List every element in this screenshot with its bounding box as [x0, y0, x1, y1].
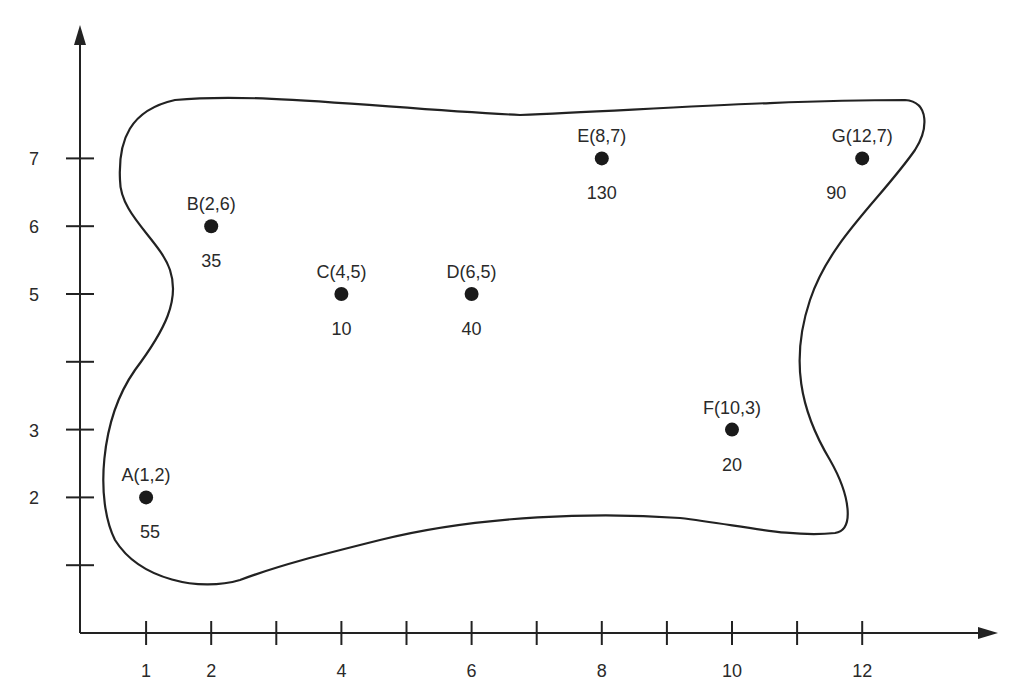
x-tick-label: 12 [852, 661, 872, 681]
point-value: 90 [826, 183, 846, 203]
y-ticks: 23567 [29, 149, 94, 565]
region-boundary [103, 98, 924, 585]
point-value: 130 [587, 183, 617, 203]
point-d: D(6,5)40 [447, 262, 497, 339]
point-label: E(8,7) [577, 126, 626, 146]
x-tick-label: 8 [597, 661, 607, 681]
location-diagram: 124681012 23567 A(1,2)55B(2,6)35C(4,5)10… [0, 0, 1010, 687]
point-marker-icon [334, 287, 348, 301]
point-label: C(4,5) [316, 262, 366, 282]
x-ticks: 124681012 [141, 621, 872, 681]
point-b: B(2,6)35 [187, 194, 236, 271]
point-label: A(1,2) [122, 465, 171, 485]
x-tick-label: 2 [206, 661, 216, 681]
point-value: 40 [462, 319, 482, 339]
y-tick-label: 2 [29, 488, 39, 508]
point-marker-icon [595, 151, 609, 165]
x-tick-label: 4 [336, 661, 346, 681]
point-label: B(2,6) [187, 194, 236, 214]
point-marker-icon [139, 490, 153, 504]
point-a: A(1,2)55 [122, 465, 171, 542]
y-tick-label: 5 [29, 285, 39, 305]
x-tick-label: 10 [722, 661, 742, 681]
point-label: F(10,3) [703, 398, 761, 418]
point-marker-icon [725, 423, 739, 437]
point-marker-icon [204, 219, 218, 233]
y-tick-label: 3 [29, 421, 39, 441]
point-value: 20 [722, 455, 742, 475]
point-label: G(12,7) [832, 126, 893, 146]
x-axis-arrow-icon [978, 627, 998, 639]
point-value: 55 [140, 522, 160, 542]
point-f: F(10,3)20 [703, 398, 761, 475]
y-tick-label: 7 [29, 149, 39, 169]
point-label: D(6,5) [447, 262, 497, 282]
points: A(1,2)55B(2,6)35C(4,5)10D(6,5)40E(8,7)13… [122, 126, 893, 542]
point-marker-icon [465, 287, 479, 301]
x-axis [80, 627, 998, 639]
y-tick-label: 6 [29, 217, 39, 237]
y-axis [74, 25, 86, 633]
y-axis-arrow-icon [74, 25, 86, 45]
point-c: C(4,5)10 [316, 262, 366, 339]
x-tick-label: 6 [467, 661, 477, 681]
point-value: 35 [201, 251, 221, 271]
point-value: 10 [331, 319, 351, 339]
x-tick-label: 1 [141, 661, 151, 681]
point-e: E(8,7)130 [577, 126, 626, 203]
point-marker-icon [855, 151, 869, 165]
